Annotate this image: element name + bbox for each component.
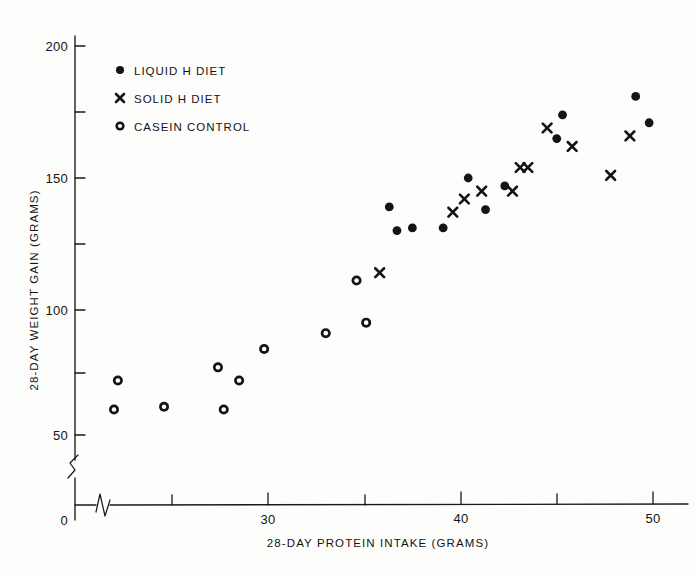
legend-marker-cross-icon: [116, 94, 124, 102]
y-tick-label-150: 150: [45, 171, 68, 186]
data-point-filled-circle: [408, 224, 417, 233]
data-point-cross: [626, 132, 635, 141]
data-point-cross: [523, 163, 532, 172]
x-axis-break-icon: [96, 494, 110, 516]
y-tick-label-200: 200: [45, 39, 68, 54]
x-tick-label-50: 50: [645, 511, 660, 526]
data-point-open-circle-hole: [221, 407, 226, 412]
data-point-cross: [508, 187, 517, 196]
x-tick-label-40: 40: [453, 511, 468, 526]
y-axis-break-icon: [68, 455, 78, 478]
data-point-filled-circle: [631, 92, 640, 101]
data-point-open-circle-hole: [216, 365, 221, 370]
data-point-open-circle-hole: [112, 407, 117, 412]
x-axis-title: 28-DAY PROTEIN INTAKE (GRAMS): [267, 537, 489, 549]
data-point-filled-circle: [393, 226, 402, 235]
data-point-open-circle-hole: [364, 320, 369, 325]
series-liquid-h-diet: [385, 92, 654, 235]
series-casein-control: [109, 276, 371, 415]
data-point-filled-circle: [645, 118, 654, 127]
data-point-open-circle-hole: [237, 378, 242, 383]
figure-container: 200 150 100 50 0 30 40 50 28-DAY PROTEIN…: [0, 0, 696, 574]
data-point-open-circle-hole: [162, 405, 167, 410]
x-axis-line-main: [110, 504, 688, 505]
origin-label: 0: [60, 513, 68, 528]
legend-marker-filled-circle-icon: [116, 66, 124, 74]
series-solid-h-diet: [375, 124, 634, 277]
x-tick-label-30: 30: [260, 512, 275, 527]
data-point-filled-circle: [439, 224, 448, 233]
data-point-filled-circle: [464, 174, 473, 183]
data-point-cross: [543, 124, 552, 133]
data-point-open-circle-hole: [354, 278, 359, 283]
legend: LIQUID H DIET SOLID H DIET CASEIN CONTRO…: [115, 65, 250, 133]
scatter-plot: 200 150 100 50 0 30 40 50 28-DAY PROTEIN…: [0, 0, 696, 574]
data-point-cross: [448, 208, 457, 217]
data-point-open-circle-hole: [262, 347, 267, 352]
data-point-cross: [568, 142, 577, 151]
data-point-cross: [375, 268, 384, 277]
legend-label-liquid-h-diet: LIQUID H DIET: [134, 65, 226, 77]
data-point-cross: [606, 171, 615, 180]
x-axis-ticks: [172, 492, 653, 505]
y-axis-title: 28-DAY WEIGHT GAIN (GRAMS): [28, 189, 40, 390]
data-point-open-circle-hole: [323, 331, 328, 336]
y-tick-label-50: 50: [53, 428, 68, 443]
data-point-filled-circle: [481, 205, 490, 214]
y-axis-ticks: [75, 46, 85, 435]
axes-group: [68, 36, 688, 520]
data-point-filled-circle: [552, 134, 561, 143]
data-point-filled-circle: [558, 110, 567, 119]
legend-marker-open-circle-icon: [115, 121, 124, 130]
data-point-cross: [460, 195, 469, 204]
data-point-cross: [477, 187, 486, 196]
data-point-filled-circle: [385, 203, 394, 212]
legend-label-solid-h-diet: SOLID H DIET: [134, 93, 221, 105]
legend-label-casein-control: CASEIN CONTROL: [134, 121, 250, 133]
data-point-open-circle-hole: [116, 378, 121, 383]
data-points-layer: [109, 92, 654, 414]
y-tick-label-100: 100: [45, 303, 68, 318]
